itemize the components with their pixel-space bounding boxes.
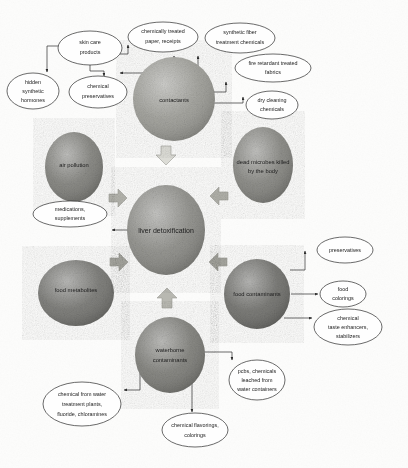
ellipse-node-pcbs-chemicals-leached[interactable]: pcbs, chemicals leached from water conta… bbox=[229, 360, 285, 400]
center-node-label: liver detoxification bbox=[138, 227, 194, 234]
ellipse-node-food-colorings[interactable]: food colorings bbox=[320, 281, 366, 307]
blob-node-dead-microbes[interactable]: dead microbes killed by the body bbox=[233, 127, 293, 203]
ellipse-node-preservatives[interactable]: preservatives bbox=[317, 237, 373, 263]
ellipse-label-paper-line2: paper, receipts bbox=[145, 38, 181, 44]
ellipse-label-food-colorings-line1: food bbox=[338, 286, 349, 292]
blob-label-air-pollution: air pollution bbox=[59, 162, 89, 168]
ellipse-label-pcbs-line1: pcbs, chemicals bbox=[238, 368, 277, 374]
ellipse-label-water-treatment-line3: fluoride, chloramines bbox=[57, 411, 107, 417]
ellipse-label-pcbs-line2: leached from bbox=[241, 377, 273, 383]
ellipse-label-flavorings-line1: chemical flavorings, bbox=[171, 422, 219, 428]
blob-node-waterborne-contaminants[interactable]: waterborne contaminants bbox=[135, 317, 205, 393]
ellipse-label-flavorings-line2: colorings bbox=[184, 432, 206, 438]
ellipse-label-dry-cleaning-line2: chemicals bbox=[260, 106, 284, 112]
ellipse-label-pcbs-line3: water containers bbox=[236, 386, 277, 392]
ellipse-node-dry-cleaning-chemicals[interactable]: dry cleaning chemicals bbox=[246, 91, 298, 119]
blob-node-food-contaminants[interactable]: food contaminants bbox=[224, 259, 290, 329]
ellipse-label-chemical-preservatives-line2: preservatives bbox=[82, 93, 114, 99]
ellipse-node-medications-supplements[interactable]: medications, supplements bbox=[33, 201, 107, 227]
ellipse-label-skin-care-line1: skin care bbox=[79, 39, 101, 45]
diagram-canvas: contactants air pollution dead microbes … bbox=[0, 0, 408, 468]
ellipse-node-synthetic-fiber-treatment-chemicals[interactable]: synthetic fiber treatment chemicals bbox=[205, 23, 275, 53]
blob-label-waterborne-line1: waterborne bbox=[154, 347, 184, 353]
ellipse-node-skin-care-products[interactable]: skin care products bbox=[58, 31, 122, 65]
ellipse-label-fire-retardant-line1: fire retardant treated bbox=[249, 60, 298, 66]
blob-node-air-pollution[interactable]: air pollution bbox=[45, 132, 103, 202]
ellipse-node-fire-retardant-treated-fabrics[interactable]: fire retardant treated fabrics bbox=[235, 54, 311, 82]
blob-label-contactants: contactants bbox=[159, 97, 189, 103]
ellipse-label-skin-care-line2: products bbox=[80, 49, 101, 55]
ellipse-label-water-treatment-line1: chemical from water bbox=[58, 391, 106, 397]
ellipse-label-food-colorings-line2: colorings bbox=[332, 295, 354, 301]
ellipse-label-water-treatment-line2: treatment plants, bbox=[62, 401, 103, 407]
ellipse-node-chemical-from-water-treatment-plants[interactable]: chemical from water treatment plants, fl… bbox=[43, 382, 121, 426]
ellipse-label-medications-line1: medications, bbox=[55, 206, 86, 212]
ellipse-node-chemical-flavorings-colorings[interactable]: chemical flavorings, colorings bbox=[162, 413, 228, 447]
ellipse-label-hidden-hormones-line3: hormones bbox=[21, 97, 45, 103]
blob-node-liver-detoxification[interactable]: liver detoxification bbox=[127, 185, 205, 275]
blob-label-food-metabolites: food metabolites bbox=[55, 287, 98, 293]
ellipse-label-taste-enhancers-line2: taste enhancers, bbox=[328, 324, 368, 330]
blob-node-contactants[interactable]: contactants bbox=[133, 57, 215, 141]
blob-label-dead-microbes-line1: dead microbes killed bbox=[237, 159, 290, 165]
ellipse-label-synthetic-fiber-line1: synthetic fiber bbox=[223, 29, 256, 35]
blob-label-waterborne-line2: contaminants bbox=[153, 357, 188, 363]
ellipse-label-taste-enhancers-line3: stabilizers bbox=[336, 333, 360, 339]
ellipse-label-chemical-preservatives-line1: chemical bbox=[87, 83, 108, 89]
ellipse-node-chemical-taste-enhancers-stabilizers[interactable]: chemical taste enhancers, stabilizers bbox=[314, 309, 382, 345]
ellipse-label-taste-enhancers-line1: chemical bbox=[337, 315, 358, 321]
ellipse-label-dry-cleaning-line1: dry cleaning bbox=[257, 97, 286, 103]
ellipse-node-chemically-treated-paper-receipts[interactable]: chemically treated paper, receipts bbox=[128, 22, 198, 52]
blob-node-food-metabolites[interactable]: food metabolites bbox=[38, 260, 114, 326]
ellipse-label-paper-line1: chemically treated bbox=[141, 28, 184, 34]
liver-detoxification-diagram: contactants air pollution dead microbes … bbox=[0, 0, 408, 468]
ellipse-label-hidden-hormones-line2: synthetic bbox=[22, 88, 44, 94]
ellipse-label-medications-line2: supplements bbox=[55, 215, 86, 221]
ellipse-node-hidden-synthetic-hormones[interactable]: hidden synthetic hormones bbox=[7, 73, 59, 109]
ellipse-label-synthetic-fiber-line2: treatment chemicals bbox=[216, 39, 265, 45]
ellipse-node-chemical-preservatives[interactable]: chemical preservatives bbox=[69, 76, 127, 108]
blob-label-food-contaminants: food contaminants bbox=[233, 291, 280, 297]
ellipse-label-fire-retardant-line2: fabrics bbox=[265, 69, 281, 75]
blob-label-dead-microbes-line2: by the body bbox=[248, 168, 278, 174]
ellipse-label-hidden-hormones-line1: hidden bbox=[25, 79, 41, 85]
ellipse-label-preservatives: preservatives bbox=[329, 247, 361, 253]
